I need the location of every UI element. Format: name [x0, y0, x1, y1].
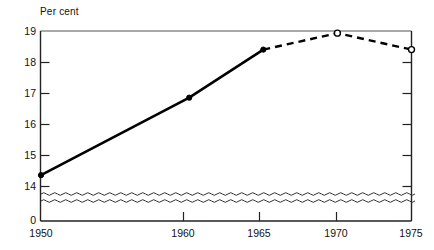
- series-line-actual: [41, 50, 263, 176]
- data-point-filled: [261, 47, 266, 52]
- x-axis-ticks: [184, 212, 337, 221]
- y-axis-ticks: [41, 63, 412, 187]
- chart-figure: Per cent 19 18 17 16 15 14 0 1950 1960 1…: [0, 0, 434, 250]
- data-point-filled: [38, 173, 43, 178]
- data-point-filled: [187, 95, 192, 100]
- axis-break-wavy: [41, 193, 415, 203]
- axis-frame: [41, 31, 412, 221]
- data-point-open: [409, 47, 415, 53]
- plot-area: [0, 0, 434, 250]
- data-point-open: [334, 30, 340, 36]
